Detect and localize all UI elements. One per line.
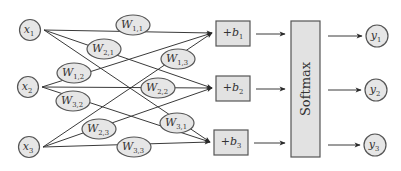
weight-node-W31: W3,1 [160, 113, 194, 133]
weight-node-W11: W1,1 [116, 15, 150, 35]
weight-node-W22: W2,2 [141, 78, 175, 98]
weight-node-W13: W1,3 [161, 49, 195, 69]
softmax-box: Softmax [291, 21, 320, 157]
weight-node-W33: W3,3 [117, 137, 151, 157]
output-node-y2: y2 [365, 79, 387, 101]
softmax-network-diagram: x1x2x3W1,1W2,1W1,2W1,3W2,2W3,2W3,1W2,3W3… [0, 0, 401, 171]
input-node-x2: x2 [18, 77, 39, 98]
output-node-y3: y3 [364, 134, 386, 156]
softmax-label: Softmax [298, 61, 313, 116]
weight-node-W12: W1,2 [57, 63, 91, 83]
bias-box-b2: +b2 [216, 76, 250, 101]
weight-node-W21: W2,1 [87, 39, 121, 59]
edge-x2-b2 [42, 87, 212, 88]
bias-box-b3: +b3 [214, 130, 248, 155]
bias-box-b1: +b1 [216, 21, 250, 46]
input-node-x1: x1 [20, 20, 41, 41]
weight-node-W32: W3,2 [56, 91, 90, 111]
weight-node-W23: W2,3 [82, 119, 116, 139]
output-node-y1: y1 [366, 25, 388, 47]
input-node-x3: x3 [19, 137, 40, 158]
